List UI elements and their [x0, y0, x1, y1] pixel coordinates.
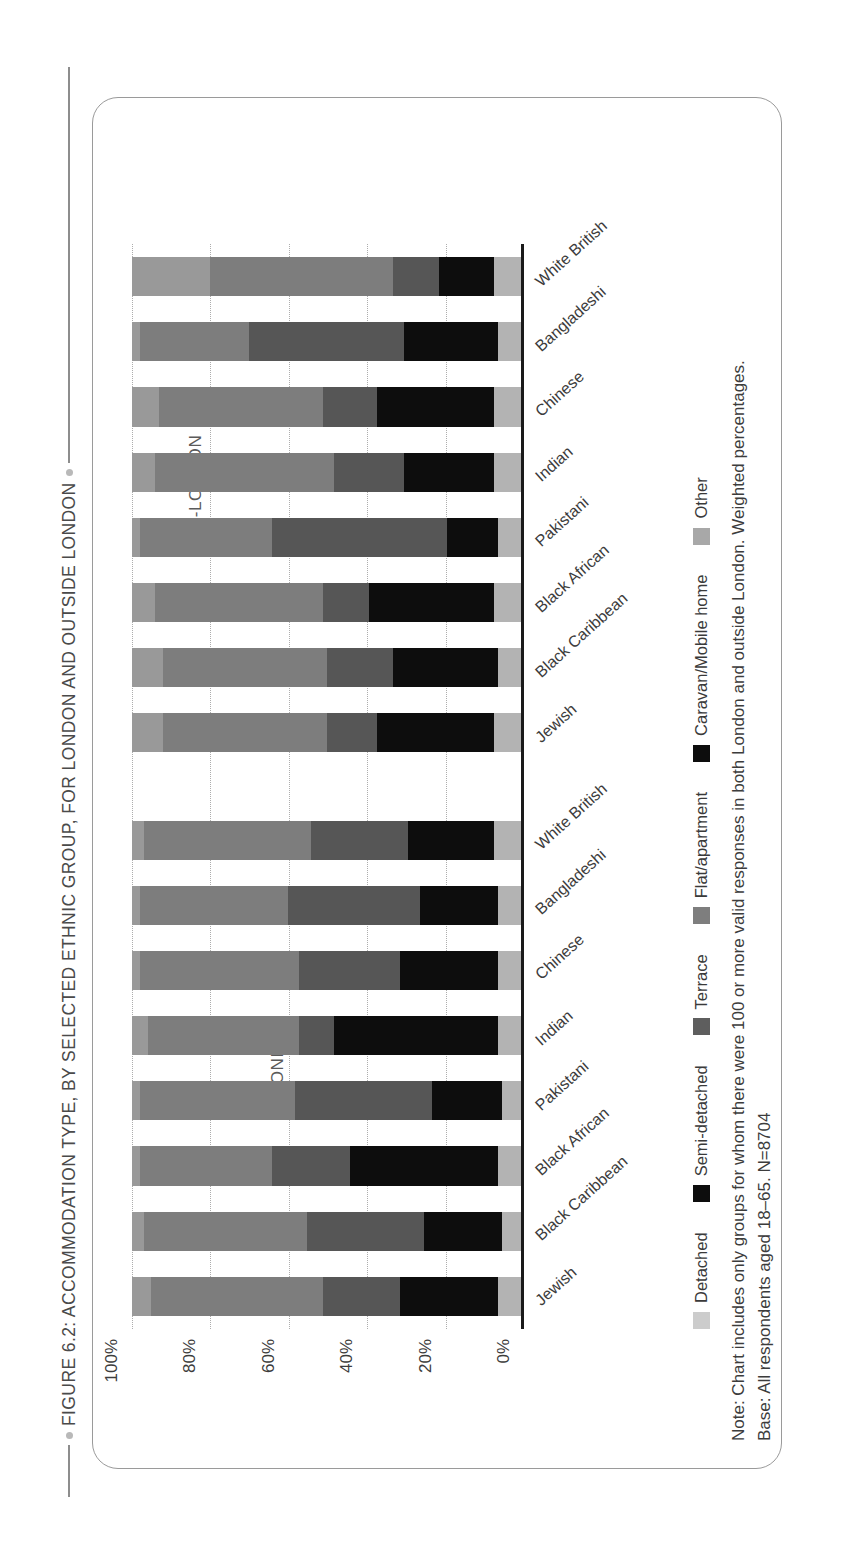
- bar-segment-semi-detached: [140, 885, 288, 924]
- legend-item-other[interactable]: Other: [692, 477, 711, 544]
- category-label-jewish: Jewish: [532, 1263, 580, 1309]
- legend-label: Flat/apartment: [692, 791, 711, 897]
- bar-segment-detached: [132, 713, 163, 752]
- bar-segment-detached: [132, 452, 155, 491]
- bar-segment-other: [498, 885, 521, 924]
- legend-item-semi-detached[interactable]: Semi-detached: [692, 1065, 711, 1202]
- category-slot: Black African: [528, 569, 678, 634]
- category-slot: Black African: [528, 1133, 678, 1198]
- bar-segment-flat-apartment: [408, 820, 494, 859]
- stacked-bar[interactable]: [132, 713, 521, 752]
- legend-item-caravan-mobile-home[interactable]: Caravan/Mobile home: [692, 574, 711, 761]
- category-slot: Indian: [528, 1003, 678, 1068]
- bar-segment-other: [494, 820, 521, 859]
- bar-slot: [132, 504, 521, 569]
- bar-segment-semi-detached: [140, 322, 249, 361]
- stacked-bar[interactable]: [132, 885, 521, 924]
- bar-segment-other: [498, 1276, 521, 1315]
- figure-page: FIGURE 6.2: ACCOMMODATION TYPE, BY SELEC…: [0, 0, 862, 1563]
- bar-segment-other: [498, 950, 521, 989]
- bar-segment-semi-detached: [144, 1211, 307, 1250]
- bar-segment-terrace: [327, 713, 378, 752]
- bar-segment-terrace: [288, 885, 420, 924]
- bar-slot: [132, 635, 521, 700]
- chart-legend: DetachedSemi-detachedTerraceFlat/apartme…: [688, 199, 714, 1329]
- bar-segment-flat-apartment: [447, 517, 498, 556]
- bar-segment-semi-detached: [140, 1146, 272, 1185]
- bar-segment-terrace: [311, 820, 408, 859]
- bar-segment-terrace: [334, 452, 404, 491]
- bar-segment-other: [494, 257, 521, 296]
- legend-swatch-icon: [693, 1312, 710, 1329]
- category-slot: Bangladeshi: [528, 309, 678, 374]
- category-slot: Black Caribbean: [528, 635, 678, 700]
- bar-segment-detached: [132, 1211, 144, 1250]
- bar-segment-other: [502, 1081, 521, 1120]
- stacked-bar[interactable]: [132, 517, 521, 556]
- stacked-bar[interactable]: [132, 387, 521, 426]
- bar-segment-detached: [132, 648, 163, 687]
- rotated-figure-canvas: FIGURE 6.2: ACCOMMODATION TYPE, BY SELEC…: [36, 67, 826, 1497]
- bar-segment-semi-detached: [144, 820, 311, 859]
- y-tick-60%: 60%: [259, 1339, 279, 1373]
- bar-segment-other: [498, 1146, 521, 1185]
- bar-segment-detached: [132, 1081, 140, 1120]
- legend-item-flat-apartment[interactable]: Flat/apartment: [692, 791, 711, 923]
- stacked-bar[interactable]: [132, 322, 521, 361]
- bar-segment-flat-apartment: [400, 950, 497, 989]
- bar-segment-terrace: [323, 387, 377, 426]
- category-labels: JewishBlack CaribbeanBlack AfricanPakist…: [528, 244, 678, 1329]
- stacked-bar[interactable]: [132, 1081, 521, 1120]
- bar-segment-detached: [132, 885, 140, 924]
- bar-segment-other: [494, 582, 521, 621]
- bar-segment-detached: [132, 950, 140, 989]
- plot-area: [132, 244, 524, 1329]
- bar-segment-flat-apartment: [377, 713, 494, 752]
- stacked-bar[interactable]: [132, 1276, 521, 1315]
- stacked-bar[interactable]: [132, 452, 521, 491]
- stacked-bar[interactable]: [132, 950, 521, 989]
- legend-label: Other: [692, 477, 711, 518]
- bar-segment-other: [502, 1211, 521, 1250]
- title-rule-right: [68, 67, 69, 463]
- stacked-bar[interactable]: [132, 1146, 521, 1185]
- bar-segment-terrace: [327, 648, 393, 687]
- stacked-bar[interactable]: [132, 648, 521, 687]
- legend-swatch-icon: [693, 1185, 710, 1202]
- title-rule-left: [68, 1445, 69, 1497]
- legend-label: Terrace: [692, 954, 711, 1009]
- bar-slot: [132, 807, 521, 872]
- bar-segment-terrace: [249, 322, 405, 361]
- bar-segment-other: [494, 387, 521, 426]
- bar-slot: [132, 1198, 521, 1263]
- bar-segment-flat-apartment: [369, 582, 493, 621]
- figure-title-row: FIGURE 6.2: ACCOMMODATION TYPE, BY SELEC…: [56, 67, 82, 1497]
- note-line-1: Note: Chart includes only groups for who…: [726, 121, 752, 1441]
- legend-item-terrace[interactable]: Terrace: [692, 954, 711, 1035]
- stacked-bar[interactable]: [132, 820, 521, 859]
- legend-label: Detached: [692, 1232, 711, 1303]
- bar-segment-semi-detached: [210, 257, 393, 296]
- stacked-bar[interactable]: [132, 1016, 521, 1055]
- bar-slot: [132, 244, 521, 309]
- legend-item-detached[interactable]: Detached: [692, 1232, 711, 1329]
- bar-segment-flat-apartment: [439, 257, 493, 296]
- bar-segment-flat-apartment: [404, 452, 493, 491]
- bar-segment-semi-detached: [163, 713, 326, 752]
- y-tick-80%: 80%: [180, 1339, 200, 1373]
- bar-segment-flat-apartment: [393, 648, 498, 687]
- bar-segment-detached: [132, 1016, 148, 1055]
- stacked-bar[interactable]: [132, 257, 521, 296]
- category-slot: Indian: [528, 439, 678, 504]
- stacked-bar[interactable]: [132, 582, 521, 621]
- category-slot: Black Caribbean: [528, 1198, 678, 1263]
- bar-segment-terrace: [272, 1146, 350, 1185]
- figure-note: Note: Chart includes only groups for who…: [726, 121, 779, 1441]
- category-slot: White British: [528, 244, 678, 309]
- bar-segment-semi-detached: [140, 950, 299, 989]
- stacked-bar[interactable]: [132, 1211, 521, 1250]
- figure-title: FIGURE 6.2: ACCOMMODATION TYPE, BY SELEC…: [59, 482, 80, 1426]
- bar-segment-flat-apartment: [334, 1016, 497, 1055]
- category-slot: Bangladeshi: [528, 872, 678, 937]
- bar-slot: [132, 309, 521, 374]
